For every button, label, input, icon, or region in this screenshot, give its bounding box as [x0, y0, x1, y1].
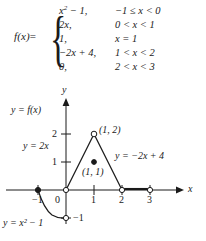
function-label: f(x)=	[14, 30, 36, 42]
closed-point-1-1	[92, 160, 97, 165]
piece-rows: x2 − 1, −1 ≤ x < 0 2x, 0 < x < 1 1, x = …	[59, 4, 205, 74]
closed-point-neg1-0	[35, 187, 40, 192]
piece-row: −2x + 4, 1 < x < 2	[59, 46, 205, 60]
x-axis-arrow	[176, 187, 184, 194]
piece-expression: 0,	[59, 60, 115, 74]
open-point-0-0	[63, 187, 68, 192]
x-ticklabel-1: 1	[91, 194, 96, 205]
x-ticklabel-neg1: −1	[32, 194, 43, 205]
label-y-equals-fx: y = f(x)	[11, 104, 41, 115]
label-point-1-1: (1, 1)	[82, 166, 104, 177]
open-point-2-0	[119, 187, 124, 192]
label-point-1-2: (1, 2)	[99, 124, 121, 135]
piece-row: 0, 2 < x < 3	[59, 60, 205, 74]
piece-row: x2 − 1, −1 ≤ x < 0	[59, 4, 205, 18]
piece-expression: x2 − 1,	[59, 4, 115, 18]
y-axis-label: y	[62, 84, 66, 95]
piece-expression: 1,	[59, 32, 115, 46]
y-axis-arrow	[63, 98, 70, 106]
open-point-3-0	[147, 187, 152, 192]
x-axis-label: x	[188, 183, 192, 194]
label-line-2x: y = 2x	[23, 140, 49, 151]
piecewise-function-figure: f(x)= { x2 − 1, −1 ≤ x < 0 2x, 0 < x < 1…	[0, 0, 206, 241]
x-ticklabel-3: 3	[147, 194, 152, 205]
piecewise-formula: f(x)= { x2 − 1, −1 ≤ x < 0 2x, 0 < x < 1…	[0, 0, 206, 78]
curve-line-neg2x4	[94, 134, 122, 190]
y-ticklabel-neg1: −1	[73, 212, 84, 223]
open-point-0-neg1	[63, 215, 68, 220]
x-ticklabel-2: 2	[119, 194, 124, 205]
piece-row: 2x, 0 < x < 1	[59, 18, 205, 32]
piece-expression: 2x,	[59, 18, 115, 32]
open-point-1-2	[91, 131, 97, 137]
piece-condition: x = 1	[115, 32, 205, 46]
piece-expression-tail: − 1,	[67, 5, 87, 16]
equals-sign: =	[30, 30, 36, 42]
function-name: f(x)	[14, 30, 30, 42]
label-parabola: y = x² − 1	[3, 217, 43, 228]
piece-row: 1, x = 1	[59, 32, 205, 46]
piece-condition: 2 < x < 3	[115, 60, 205, 74]
piece-condition: 0 < x < 1	[115, 18, 205, 32]
piece-condition: −1 ≤ x < 0	[115, 4, 205, 18]
piece-expression: −2x + 4,	[59, 46, 115, 60]
function-graph: y x y = f(x) y = 2x y = −2x + 4 y = x² −…	[0, 78, 206, 241]
y-ticklabel-1: 1	[52, 156, 57, 167]
x-ticklabel-0: 0	[55, 194, 60, 205]
piece-condition: 1 < x < 2	[115, 46, 205, 60]
y-ticklabel-2: 2	[52, 128, 57, 139]
label-line-neg2x4: y = −2x + 4	[115, 150, 164, 161]
